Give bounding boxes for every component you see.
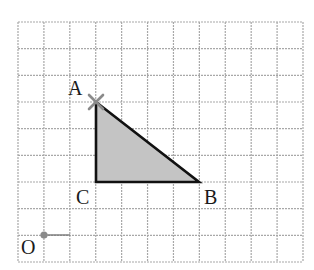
square-grid <box>18 22 303 262</box>
label-o: O <box>21 236 35 258</box>
label-b: B <box>204 186 217 208</box>
label-a: A <box>68 77 83 99</box>
label-c: C <box>76 186 89 208</box>
dot-icon-point-o <box>40 231 47 238</box>
grid-diagram: A C B O <box>0 0 314 270</box>
